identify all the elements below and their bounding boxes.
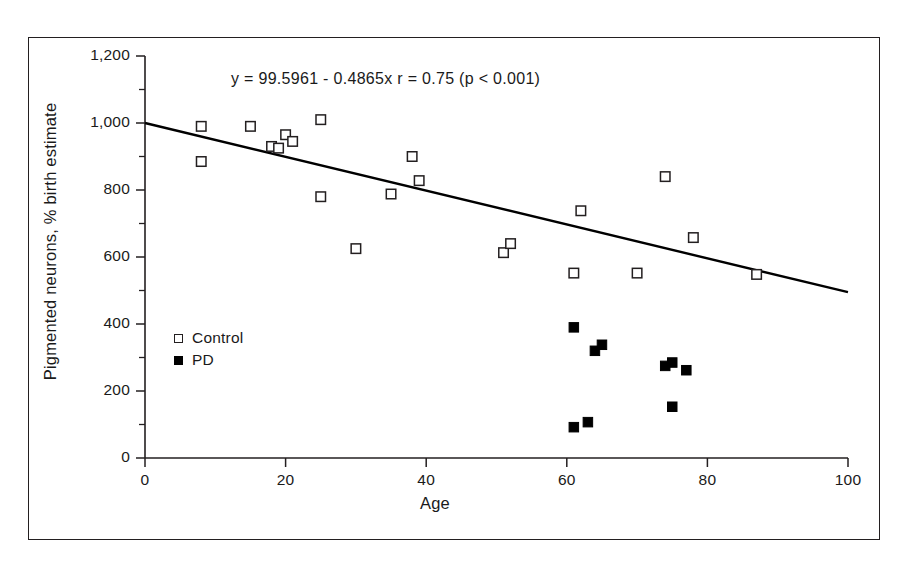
control-point xyxy=(414,176,424,186)
control-point xyxy=(196,122,206,132)
x-axis-title: Age xyxy=(420,494,450,513)
control-point xyxy=(386,189,396,199)
figure-panel: 02004006008001,0001,200 020406080100 y =… xyxy=(0,0,910,576)
pd-point xyxy=(668,402,678,412)
x-tick-label: 0 xyxy=(115,471,175,489)
control-point xyxy=(246,122,256,132)
x-tick-label: 80 xyxy=(677,471,737,489)
control-point xyxy=(569,268,579,278)
pd-point xyxy=(682,365,692,375)
x-tick-label: 100 xyxy=(818,471,878,489)
pd-point xyxy=(597,340,607,350)
control-point xyxy=(288,137,298,147)
control-point xyxy=(351,244,361,254)
y-tick-label: 1,200 xyxy=(68,46,130,64)
control-point xyxy=(660,172,670,182)
legend-label-pd: PD xyxy=(192,351,214,369)
x-tick-label: 60 xyxy=(537,471,597,489)
control-point xyxy=(499,248,509,258)
filled-square-marker-icon xyxy=(174,356,183,365)
regression-annotation: y = 99.5961 - 0.4865x r = 0.75 (p < 0.00… xyxy=(231,70,540,88)
y-tick-label: 0 xyxy=(68,448,130,466)
y-tick-label: 800 xyxy=(68,180,130,198)
y-tick-label: 400 xyxy=(68,314,130,332)
pd-point xyxy=(569,422,579,432)
pd-point xyxy=(569,323,579,333)
pd-point xyxy=(668,358,678,368)
control-point xyxy=(274,143,284,153)
control-point xyxy=(407,152,417,162)
control-point xyxy=(316,192,326,202)
legend-item-control: Control xyxy=(174,327,243,349)
pd-data-points xyxy=(569,323,691,432)
open-square-marker-icon xyxy=(174,334,183,343)
control-point xyxy=(632,268,642,278)
control-point xyxy=(576,206,586,216)
regression-line xyxy=(145,123,848,292)
x-tick-label: 40 xyxy=(396,471,456,489)
control-data-points xyxy=(196,115,761,279)
control-point xyxy=(752,270,762,280)
y-axis-title: Pigmented neurons, % birth estimate xyxy=(41,42,60,442)
control-point xyxy=(316,115,326,125)
chart-legend: Control PD xyxy=(174,327,243,371)
pd-point xyxy=(583,417,593,427)
axis-group xyxy=(136,56,848,467)
y-tick-label: 1,000 xyxy=(68,113,130,131)
control-point xyxy=(196,157,206,167)
legend-item-pd: PD xyxy=(174,349,243,371)
legend-label-control: Control xyxy=(192,329,243,347)
x-tick-label: 20 xyxy=(256,471,316,489)
y-tick-label: 600 xyxy=(68,247,130,265)
y-tick-label: 200 xyxy=(68,381,130,399)
control-point xyxy=(689,233,699,243)
control-point xyxy=(506,239,516,249)
